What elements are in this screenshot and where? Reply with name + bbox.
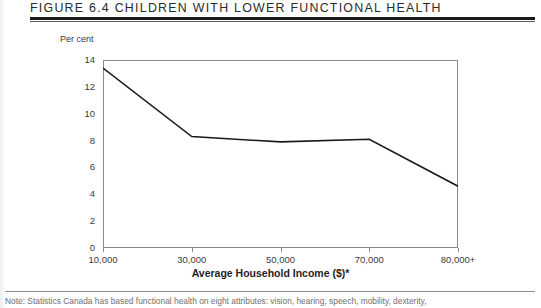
x-axis-tick-label: 70,000 [329, 255, 409, 265]
figure-note: Note: Statistics Canada has based functi… [5, 296, 541, 307]
line-chart: Per cent 02468101214 10,00030,00050,0007… [0, 0, 541, 308]
x-axis-tick-mark [458, 248, 459, 252]
data-series-line [103, 68, 458, 186]
x-axis-tick-mark [369, 248, 370, 252]
x-axis-tick-label: 50,000 [241, 255, 321, 265]
x-axis-tick-label: 10,000 [63, 255, 143, 265]
y-axis-tick-label: 4 [65, 189, 95, 199]
x-axis-tick-label: 30,000 [152, 255, 232, 265]
y-axis-tick-label: 2 [65, 216, 95, 226]
y-axis-tick-label: 10 [65, 109, 95, 119]
x-axis-tick-mark [103, 248, 104, 252]
y-axis-title: Per cent [60, 34, 94, 44]
x-axis-tick-mark [192, 248, 193, 252]
y-axis-tick-label: 14 [65, 55, 95, 65]
x-axis-title: Average Household Income ($)* [0, 267, 541, 279]
figure-container: Figure 6.4 Children with Lower Functiona… [0, 0, 541, 308]
y-axis-tick-label: 6 [65, 162, 95, 172]
y-axis-tick-label: 12 [65, 82, 95, 92]
x-axis-tick-label: 80,000+ [418, 255, 498, 265]
x-axis-tick-mark [281, 248, 282, 252]
y-axis-tick-label: 0 [65, 243, 95, 253]
chart-plot-svg [103, 60, 458, 248]
y-axis-tick-label: 8 [65, 136, 95, 146]
note-divider [5, 291, 535, 292]
